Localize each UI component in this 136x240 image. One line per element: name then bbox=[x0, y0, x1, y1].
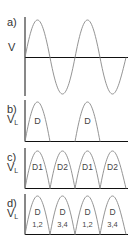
panel-c-segment-1-label: D1 bbox=[32, 162, 43, 172]
panel-b: D D bbox=[25, 100, 128, 142]
waveform-diagram: D D D1 D2 D1 D2 D 1,2 D 3,4 D 1,2 D 3,4 bbox=[0, 0, 136, 240]
panel-d-segment-4-sub: 3,4 bbox=[107, 220, 117, 229]
panel-d-segment-3-label: D bbox=[84, 207, 90, 217]
panel-d: D 1,2 D 3,4 D 1,2 D 3,4 bbox=[25, 194, 128, 235]
panel-d-segment-3-sub: 1,2 bbox=[82, 220, 92, 229]
panel-b-segment-1-label: D bbox=[34, 116, 41, 126]
panel-d-segment-2-label: D bbox=[59, 207, 65, 217]
panel-c-segment-2-label: D2 bbox=[57, 162, 68, 172]
panel-c: D1 D2 D1 D2 bbox=[25, 148, 128, 189]
panel-d-segment-1-label: D bbox=[34, 207, 40, 217]
panel-d-segment-4-label: D bbox=[109, 207, 115, 217]
panel-b-segment-2-label: D bbox=[84, 116, 91, 126]
panel-a bbox=[25, 17, 128, 96]
panel-c-segment-4-label: D2 bbox=[107, 162, 118, 172]
panel-d-segment-2-sub: 3,4 bbox=[57, 220, 67, 229]
panel-c-segment-3-label: D1 bbox=[82, 162, 93, 172]
panel-d-segment-1-sub: 1,2 bbox=[32, 220, 42, 229]
